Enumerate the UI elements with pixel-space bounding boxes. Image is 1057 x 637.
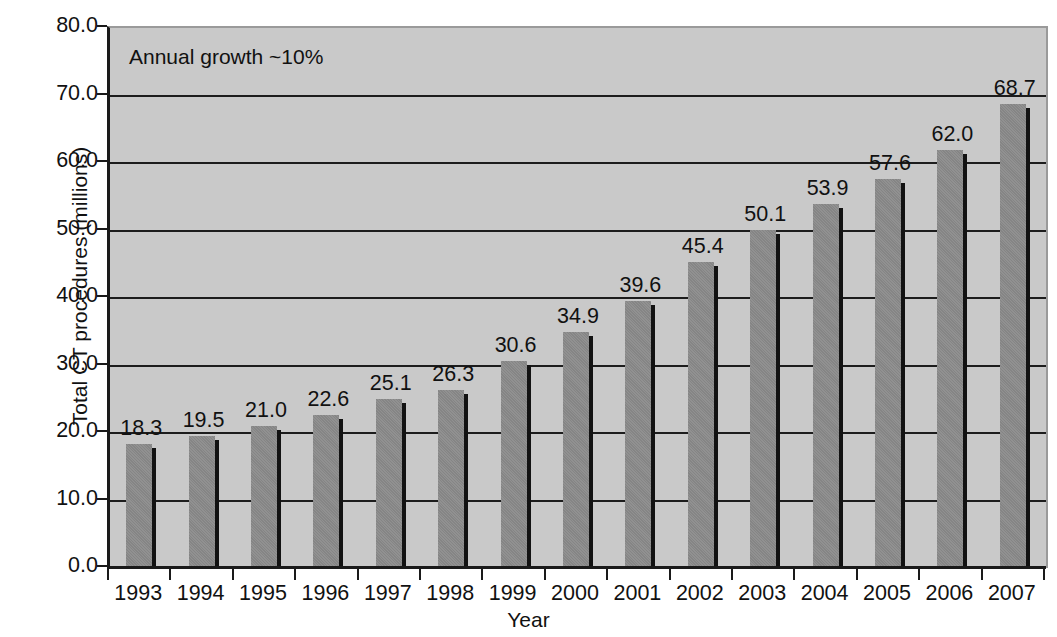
bar-1994 xyxy=(189,436,215,568)
bar-value-label: 26.3 xyxy=(418,364,488,386)
y-tick-mark xyxy=(97,565,107,567)
y-tick-label: 0.0 xyxy=(6,555,98,577)
bar-value-label: 18.3 xyxy=(110,418,176,440)
bar-value-label: 50.1 xyxy=(730,204,800,226)
bar-value-label: 68.7 xyxy=(980,78,1046,100)
bar-shadow xyxy=(152,448,156,568)
bar-shadow xyxy=(839,208,843,568)
bar-value-label: 53.9 xyxy=(793,178,863,200)
gridline xyxy=(110,230,1046,232)
y-tick-label: 60.0 xyxy=(6,150,98,172)
gridline xyxy=(110,297,1046,299)
bar-value-label: 62.0 xyxy=(917,124,987,146)
bar-shadow xyxy=(901,183,905,568)
bar-shadow xyxy=(215,440,219,568)
bar-shadow xyxy=(339,419,343,568)
y-tick-label: 30.0 xyxy=(6,353,98,375)
x-tick-mark xyxy=(107,569,109,580)
plot-area: Annual growth ~10% 18.319.521.022.625.12… xyxy=(107,26,1048,568)
bar-2004 xyxy=(813,204,839,568)
bar-shadow xyxy=(963,154,967,569)
x-tick-mark xyxy=(294,569,296,580)
x-tick-mark xyxy=(1043,569,1045,580)
y-tick-mark xyxy=(97,93,107,95)
x-tick-mark xyxy=(419,569,421,580)
bar-1998 xyxy=(438,390,464,568)
x-tick-mark xyxy=(481,569,483,580)
x-tick-mark xyxy=(856,569,858,580)
y-tick-mark xyxy=(97,228,107,230)
x-tick-mark xyxy=(731,569,733,580)
x-tick-mark xyxy=(357,569,359,580)
bar-2000 xyxy=(563,332,589,568)
bar-value-label: 34.9 xyxy=(543,306,613,328)
bar-shadow xyxy=(589,336,593,568)
bar-1995 xyxy=(251,426,277,568)
x-tick-mark xyxy=(669,569,671,580)
bar-shadow xyxy=(1026,108,1030,568)
y-axis-ticks: 0.010.020.030.040.050.060.070.080.0 xyxy=(0,0,98,637)
bar-shadow xyxy=(714,266,718,568)
bar-1996 xyxy=(313,415,339,568)
plot-inner: Annual growth ~10% 18.319.521.022.625.12… xyxy=(110,28,1046,568)
y-tick-label: 70.0 xyxy=(6,83,98,105)
bar-1993 xyxy=(126,444,152,568)
x-tick-mark xyxy=(544,569,546,580)
y-tick-mark xyxy=(97,160,107,162)
bar-value-label: 39.6 xyxy=(605,275,675,297)
bar-2003 xyxy=(750,230,776,568)
bar-value-label: 45.4 xyxy=(668,236,738,258)
bar-2001 xyxy=(625,301,651,568)
bar-shadow xyxy=(464,394,468,568)
y-tick-label: 80.0 xyxy=(6,15,98,37)
x-tick-mark xyxy=(169,569,171,580)
bar-value-label: 22.6 xyxy=(293,389,363,411)
y-tick-mark xyxy=(97,25,107,27)
bar-value-label: 21.0 xyxy=(231,400,301,422)
y-tick-mark xyxy=(97,498,107,500)
y-tick-mark xyxy=(97,363,107,365)
x-axis-title: Year xyxy=(0,608,1057,632)
x-tick-mark xyxy=(981,569,983,580)
bar-value-label: 19.5 xyxy=(169,410,239,432)
bar-shadow xyxy=(402,403,406,568)
bar-shadow xyxy=(651,305,655,568)
bar-value-label: 30.6 xyxy=(481,335,551,357)
y-tick-label: 50.0 xyxy=(6,218,98,240)
bar-1999 xyxy=(501,361,527,568)
y-tick-label: 10.0 xyxy=(6,488,98,510)
y-tick-mark xyxy=(97,430,107,432)
x-tick-mark xyxy=(918,569,920,580)
bar-2005 xyxy=(875,179,901,568)
bar-value-label: 25.1 xyxy=(356,373,426,395)
annotation-growth: Annual growth ~10% xyxy=(129,45,323,69)
bar-shadow xyxy=(527,365,531,568)
gridline xyxy=(110,95,1046,97)
x-tick-mark xyxy=(793,569,795,580)
y-tick-mark xyxy=(97,295,107,297)
bar-value-label: 57.6 xyxy=(855,153,925,175)
bar-shadow xyxy=(277,430,281,568)
x-tick-label: 2007 xyxy=(967,583,1057,605)
bar-2006 xyxy=(937,150,963,569)
x-axis-line xyxy=(107,566,1046,569)
bar-1997 xyxy=(376,399,402,568)
bar-shadow xyxy=(776,234,780,568)
x-tick-mark xyxy=(606,569,608,580)
bar-2002 xyxy=(688,262,714,568)
ct-procedures-bar-chart: Total CT procedures (millions) 0.010.020… xyxy=(0,0,1057,637)
x-tick-mark xyxy=(232,569,234,580)
y-tick-label: 20.0 xyxy=(6,420,98,442)
bar-2007 xyxy=(1000,104,1026,568)
y-tick-label: 40.0 xyxy=(6,285,98,307)
